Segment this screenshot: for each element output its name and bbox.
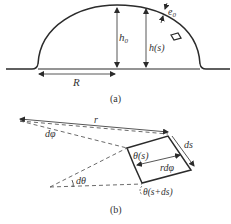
surface-element bbox=[171, 33, 181, 40]
ray-theta-1 bbox=[50, 148, 127, 187]
caption-b: (b) bbox=[110, 204, 122, 216]
ray-theta-2 bbox=[50, 184, 142, 187]
r-label: r bbox=[94, 114, 98, 125]
ds-label: ds bbox=[184, 139, 193, 150]
h0-label: h0 bbox=[119, 31, 129, 45]
dtheta-label: dθ bbox=[76, 175, 86, 186]
rdphi-label: rdφ bbox=[160, 162, 175, 173]
caption-a: (a) bbox=[110, 93, 121, 105]
figure-b: r dφ dθ ds rdφ θ(s) θ(s+ds) (b) bbox=[20, 114, 194, 216]
theta-s-label: θ(s) bbox=[133, 150, 149, 162]
dphi-label: dφ bbox=[45, 128, 56, 139]
substrate-line bbox=[6, 64, 38, 69]
theta-s-ds-arc bbox=[140, 186, 142, 195]
R-label: R bbox=[72, 76, 80, 88]
diagram-canvas: h0 h(s) e0 R (a) r dφ dθ ds bbox=[0, 0, 231, 224]
hs-label: h(s) bbox=[149, 42, 165, 54]
ray-phi-2 bbox=[20, 121, 127, 148]
figure-a: h0 h(s) e0 R (a) bbox=[6, 3, 230, 105]
e0-arrow-bottom bbox=[161, 16, 163, 23]
substrate-line-right bbox=[200, 64, 230, 69]
e0-arrow-top bbox=[165, 3, 167, 9]
theta-s-ds-label: θ(s+ds) bbox=[143, 187, 173, 198]
